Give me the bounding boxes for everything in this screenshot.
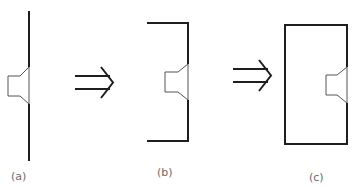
speaker-icon	[326, 67, 347, 103]
implies-arrow-icon	[233, 60, 271, 91]
speaker-icon	[8, 67, 29, 104]
diagram-canvas: (a) (b) (c)	[0, 0, 358, 187]
panel-a-flat-baffle	[8, 11, 29, 161]
panel-label-b: (b)	[157, 167, 173, 178]
implies-arrow-icon	[75, 67, 113, 98]
enclosure-box	[285, 25, 347, 144]
panel-label-c: (c)	[309, 172, 324, 183]
panel-b-folded-baffle	[147, 23, 188, 141]
panel-c-closed-box	[285, 25, 347, 144]
speaker-icon	[165, 64, 188, 100]
folded-baffle-bottom	[147, 100, 188, 141]
panel-label-a: (a)	[11, 171, 26, 182]
diagram-svg	[0, 0, 358, 187]
folded-baffle-top	[147, 23, 188, 64]
